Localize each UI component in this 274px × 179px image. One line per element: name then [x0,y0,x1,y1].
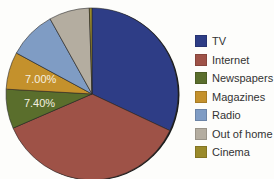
pie-chart: 7.40%7.00% [0,0,185,179]
legend-item-cinema: Cinema [195,143,273,162]
legend-item-internet: Internet [195,51,273,70]
legend-swatch [195,35,207,47]
legend-swatch [195,54,207,66]
legend-swatch [195,146,207,158]
legend-label: Radio [212,109,241,121]
data-label: 7.40% [24,97,55,109]
legend-label: Internet [212,54,249,66]
data-label: 7.00% [25,73,56,85]
legend-swatch [195,91,207,103]
legend-label: Newspapers [212,72,273,84]
legend-swatch [195,109,207,121]
legend-item-tv: TV [195,32,273,51]
legend-label: Magazines [212,91,265,103]
legend-swatch [195,72,207,84]
legend: TV Internet Newspapers Magazines Radio O… [195,32,273,162]
legend-item-out-of-home: Out of home [195,125,273,144]
legend-swatch [195,128,207,140]
legend-item-magazines: Magazines [195,88,273,107]
legend-label: Out of home [212,128,273,140]
legend-label: Cinema [212,146,250,158]
legend-item-newspapers: Newspapers [195,69,273,88]
legend-item-radio: Radio [195,106,273,125]
legend-label: TV [212,35,226,47]
